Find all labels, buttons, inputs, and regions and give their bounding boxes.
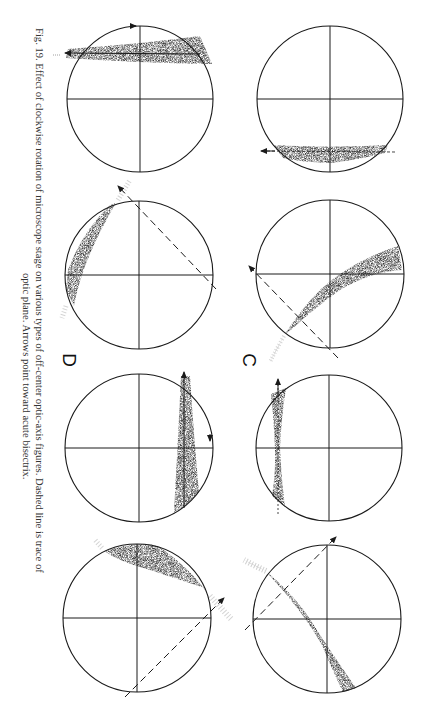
isogyre-band (66, 36, 212, 64)
figure-19: C D Fig. 19. Effect of clockwise rotatio… (0, 0, 423, 713)
circle-row3-right (256, 375, 402, 521)
circle-row2-left (62, 180, 216, 349)
isogyre-band (174, 376, 199, 512)
caption-line-1: Fig. 19. Effect of clockwise rotation of… (33, 28, 46, 688)
optic-plane-trace-dashed (249, 266, 338, 358)
panel-label-d: D (58, 353, 80, 367)
circle-row2-right (249, 200, 404, 362)
circle-row1-left (52, 26, 213, 172)
isogyre-band (285, 246, 402, 334)
optic-plane-trace-dashed (245, 537, 336, 630)
circle-row3-left (65, 372, 213, 522)
caption-line-2: optic plane. Arrows point toward acute b… (20, 28, 33, 688)
figure-caption: Fig. 19. Effect of clockwise rotation of… (20, 28, 46, 688)
isogyre-band (268, 573, 356, 692)
circle-row4-right (244, 537, 401, 693)
panel-label-c: C (238, 353, 260, 367)
circle-row1-right (257, 26, 403, 172)
circle-row4-left (63, 540, 232, 697)
